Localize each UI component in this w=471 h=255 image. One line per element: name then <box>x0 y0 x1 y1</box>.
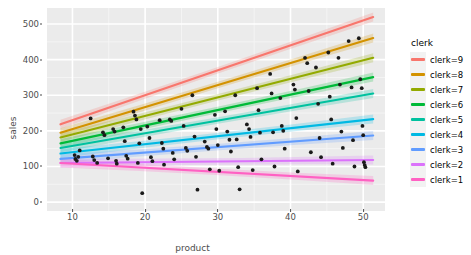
legend: clerk clerk=9clerk=8clerk=7clerk=6clerk=… <box>410 38 470 187</box>
y-tick-label: 0 <box>34 197 39 207</box>
x-tick-mark <box>145 209 146 212</box>
x-tick-label: 30 <box>212 212 223 222</box>
y-tick-mark <box>40 166 43 167</box>
legend-swatch-icon <box>410 52 426 67</box>
legend-swatch-icon <box>410 97 426 112</box>
x-tick-mark <box>290 209 291 212</box>
y-tick-mark <box>40 130 43 131</box>
legend-item-label: clerk=7 <box>430 85 463 95</box>
y-tick-label: 300 <box>23 90 39 100</box>
x-tick-mark <box>217 209 218 212</box>
legend-item-label: clerk=2 <box>430 160 463 170</box>
legend-item-label: clerk=6 <box>430 100 463 110</box>
legend-item[interactable]: clerk=8 <box>410 67 470 82</box>
legend-title: clerk <box>410 38 470 48</box>
y-tick-label: 200 <box>23 126 39 136</box>
legend-item[interactable]: clerk=3 <box>410 142 470 157</box>
y-tick-label: 400 <box>23 55 39 65</box>
x-axis-title: product <box>0 243 385 253</box>
legend-item-label: clerk=5 <box>430 115 463 125</box>
legend-swatch-icon <box>410 127 426 142</box>
legend-item[interactable]: clerk=4 <box>410 127 470 142</box>
legend-item-label: clerk=8 <box>430 70 463 80</box>
x-tick-mark <box>363 209 364 212</box>
y-tick-label: 100 <box>23 161 39 171</box>
legend-item[interactable]: clerk=6 <box>410 97 470 112</box>
legend-item-label: clerk=1 <box>430 175 463 185</box>
plot-svg <box>47 8 385 211</box>
plot-panel <box>47 8 385 211</box>
legend-item[interactable]: clerk=5 <box>410 112 470 127</box>
x-tick-label: 10 <box>67 212 78 222</box>
legend-item[interactable]: clerk=7 <box>410 82 470 97</box>
legend-item[interactable]: clerk=2 <box>410 157 470 172</box>
legend-item-label: clerk=3 <box>430 145 463 155</box>
x-tick-label: 40 <box>285 212 296 222</box>
x-axis: 1020304050 <box>0 212 471 226</box>
legend-item[interactable]: clerk=1 <box>410 172 470 187</box>
x-tick-mark <box>72 209 73 212</box>
y-tick-mark <box>40 202 43 203</box>
chart-root: sales 0100200300400500 1020304050 produc… <box>0 0 471 255</box>
legend-swatch-icon <box>410 82 426 97</box>
legend-item-label: clerk=9 <box>430 55 463 65</box>
legend-swatch-icon <box>410 67 426 82</box>
legend-swatch-icon <box>410 157 426 172</box>
legend-item-label: clerk=4 <box>430 130 463 140</box>
legend-swatch-icon <box>410 142 426 157</box>
legend-item[interactable]: clerk=9 <box>410 52 470 67</box>
x-tick-label: 50 <box>358 212 369 222</box>
legend-swatch-icon <box>410 112 426 127</box>
x-tick-label: 20 <box>140 212 151 222</box>
legend-swatch-icon <box>410 172 426 187</box>
y-tick-label: 500 <box>23 19 39 29</box>
legend-items: clerk=9clerk=8clerk=7clerk=6clerk=5clerk… <box>410 52 470 187</box>
y-tick-mark <box>40 59 43 60</box>
y-tick-mark <box>40 95 43 96</box>
y-tick-mark <box>40 24 43 25</box>
